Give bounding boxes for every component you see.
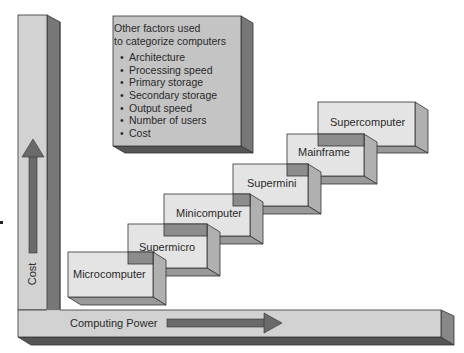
factor-item: Number of users — [120, 114, 244, 127]
factors-heading-line2: to categorize computers — [114, 35, 244, 48]
step-label-mainframe: Mainframe — [298, 146, 350, 158]
factor-item: Output speed — [120, 102, 244, 115]
y-axis-label: Cost — [26, 259, 38, 289]
step-label-minicomputer: Minicomputer — [176, 207, 242, 219]
factor-item: Cost — [120, 127, 244, 140]
step-label-supermini: Supermini — [247, 177, 297, 189]
factor-item: Architecture — [120, 51, 244, 64]
factors-heading-line1: Other factors used — [114, 22, 244, 35]
factor-item: Secondary storage — [120, 89, 244, 102]
factor-item: Processing speed — [120, 64, 244, 77]
factors-list: Other factors used to categorize compute… — [114, 22, 244, 139]
step-label-microcomputer: Microcomputer — [73, 268, 146, 280]
step-label-supermicro: Supermicro — [139, 241, 195, 253]
margin-mark — [0, 221, 3, 224]
x-axis-label: Computing Power — [70, 317, 157, 329]
factors-heading: Other factors used to categorize compute… — [114, 22, 244, 47]
step-label-supercomputer: Supercomputer — [330, 116, 405, 128]
factor-item: Primary storage — [120, 76, 244, 89]
